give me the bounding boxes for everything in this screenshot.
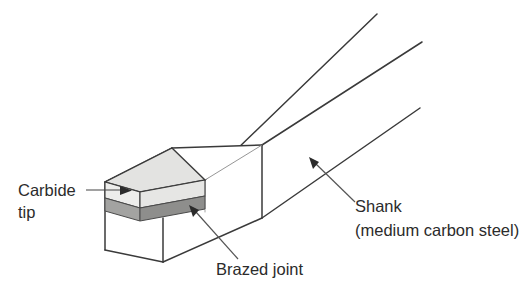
shank-leader-arrowhead — [309, 157, 319, 169]
labels: Carbide tip Brazed joint Shank (medium c… — [18, 181, 519, 278]
shank-edge-bottom-front — [163, 218, 262, 262]
brazed-joint-label: Brazed joint — [216, 260, 304, 278]
brazed-leader-line — [196, 212, 238, 259]
shank-leader-line — [316, 164, 355, 202]
shank-label-line1: Shank — [355, 197, 403, 215]
head-edge-bottom-left — [105, 250, 163, 262]
cutting-tool-diagram: Brazed carbide-tipped single-point cutti… — [0, 0, 528, 298]
carbide-label-line2: tip — [18, 203, 35, 221]
carbide-label-line1: Carbide — [18, 181, 76, 199]
shank-label-line2: (medium carbon steel) — [355, 221, 519, 239]
